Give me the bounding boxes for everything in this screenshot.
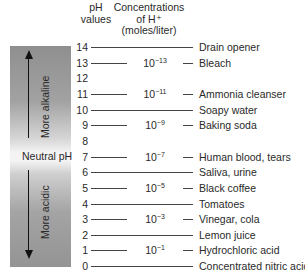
substance-label: Ammonia cleanser: [199, 87, 286, 101]
ph-value: 11: [76, 87, 88, 101]
h-concentration: 10−9: [127, 118, 183, 132]
substance-label: Baking soda: [199, 118, 257, 132]
ph-value: 10: [76, 103, 88, 117]
ph-row: 0Concentrated nitric acid: [76, 259, 305, 273]
substance-label: Black coffee: [199, 181, 256, 195]
connector-line: [91, 47, 193, 48]
h-concentration: 10−7: [127, 150, 183, 164]
ph-row: 14Drain opener: [76, 40, 305, 54]
substance-label: Lemon juice: [199, 228, 256, 242]
h-concentration: 10−5: [127, 181, 183, 195]
substance-label: Drain opener: [199, 40, 260, 54]
ph-row: 1110−11Ammonia cleanser: [76, 87, 305, 101]
substance-label: Human blood, tears: [199, 150, 291, 164]
ph-value: 9: [76, 118, 88, 132]
h-concentration: 10−13: [127, 56, 183, 70]
ph-row: 710−7Human blood, tears: [76, 150, 305, 164]
ph-row: 110−1Hydrochloric acid: [76, 243, 305, 257]
ph-value: 7: [76, 150, 88, 164]
connector-line: [91, 235, 193, 236]
ph-value: 8: [76, 134, 88, 148]
acidic-arrow-shaft: [28, 170, 29, 253]
connector-line: [91, 110, 193, 111]
ph-gradient-bar: More alkaline Neutral pH More acidic: [10, 46, 71, 267]
ph-value: 1: [76, 243, 88, 257]
connector-line: [91, 204, 193, 205]
more-alkaline-label: More alkaline: [39, 76, 51, 138]
ph-row: 4Tomatoes: [76, 197, 305, 211]
substance-label: Tomatoes: [199, 197, 245, 211]
ph-value: 5: [76, 181, 88, 195]
ph-row: 6Saliva, urine: [76, 165, 305, 179]
ph-row: 510−5Black coffee: [76, 181, 305, 195]
h-concentration: 10−1: [127, 243, 183, 257]
substance-label: Hydrochloric acid: [199, 243, 280, 257]
ph-row: 910−9Baking soda: [76, 118, 305, 132]
substance-label: Vinegar, cola: [199, 212, 260, 226]
ph-value: 13: [76, 56, 88, 70]
conc-header-line1: Concentrations: [104, 2, 194, 14]
substance-label: Bleach: [199, 56, 231, 70]
connector-line: [91, 266, 193, 267]
alkaline-arrow-shaft: [28, 58, 29, 138]
concentration-header: Concentrations of H⁺ (moles/liter): [104, 2, 194, 37]
ph-value: 2: [76, 228, 88, 242]
ph-row: 10Soapy water: [76, 103, 305, 117]
more-acidic-label: More acidic: [39, 185, 51, 239]
ph-value: 6: [76, 165, 88, 179]
neutral-ph-label: Neutral pH: [22, 150, 72, 162]
h-concentration: 10−11: [127, 87, 183, 101]
ph-row: 2Lemon juice: [76, 228, 305, 242]
ph-row: 310−3Vinegar, cola: [76, 212, 305, 226]
ph-value: 4: [76, 197, 88, 211]
ph-row: 12: [76, 71, 305, 85]
ph-value: 3: [76, 212, 88, 226]
ph-value: 0: [76, 259, 88, 273]
substance-label: Soapy water: [199, 103, 257, 117]
ph-row: 8: [76, 134, 305, 148]
ph-value: 14: [76, 40, 88, 54]
conc-header-line3: (moles/liter): [104, 25, 194, 37]
substance-label: Concentrated nitric acid: [199, 259, 305, 273]
h-concentration: 10−3: [127, 212, 183, 226]
ph-row: 1310−13Bleach: [76, 56, 305, 70]
ph-value: 12: [76, 71, 88, 85]
arrow-down-icon: [25, 250, 33, 259]
connector-line: [91, 172, 193, 173]
substance-label: Saliva, urine: [199, 165, 257, 179]
